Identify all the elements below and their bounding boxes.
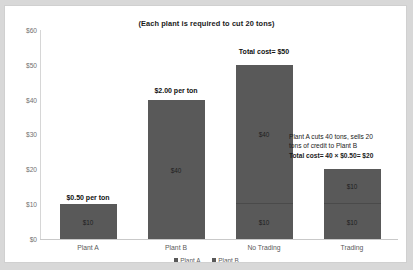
x-label-trading: Trading xyxy=(307,244,397,251)
bar-segment-trading-lower: $10 xyxy=(324,204,381,239)
bar-value-no-trading-upper: $40 xyxy=(236,131,293,138)
y-tick-50: $50 xyxy=(11,62,37,69)
y-tick-0: $0 xyxy=(11,236,37,243)
y-tick-40: $40 xyxy=(11,97,37,104)
bar-segment-plant-a-lower: $10 xyxy=(60,204,117,239)
y-tick-30: $30 xyxy=(11,131,37,138)
chart-legend: Plant A Plant B xyxy=(5,256,407,263)
annotation-line-3: Total cost= 40 × $0.50= $20 xyxy=(289,151,407,160)
bar-segment-no-trading-lower: $10 xyxy=(236,204,293,239)
annotation-text-box: Plant A cuts 40 tons, sells 20 tons of c… xyxy=(289,132,407,160)
x-axis-line xyxy=(40,239,398,240)
y-tick-60: $60 xyxy=(11,27,37,34)
y-tick-10: $10 xyxy=(11,201,37,208)
legend-swatch-icon xyxy=(212,258,216,262)
chart-container: (Each plant is required to cut 20 tons) … xyxy=(4,5,407,263)
bar-label-no-trading: Total cost= $50 xyxy=(219,48,309,55)
annotation-line-1: Plant A cuts 40 tons, sells 20 xyxy=(289,132,407,141)
bar-value-trading-lower: $10 xyxy=(324,218,381,225)
y-axis-line xyxy=(40,30,41,239)
x-label-plant-b: Plant B xyxy=(131,244,221,251)
x-label-plant-a: Plant A xyxy=(43,244,133,251)
plot-area: $0 $10 $20 $30 $40 $50 $60 $0.50 per ton… xyxy=(5,6,407,263)
legend-swatch-icon xyxy=(174,258,178,262)
legend-item-plant-a[interactable]: Plant A xyxy=(174,256,200,263)
bar-value-plant-b-lower: $40 xyxy=(148,166,205,173)
bar-segment-trading-upper: $10 xyxy=(324,169,381,204)
bar-trading[interactable]: $10 $10 xyxy=(307,169,397,239)
legend-label-plant-b: Plant B xyxy=(218,257,239,263)
bar-segment-plant-b-lower: $40 xyxy=(148,100,205,239)
bar-value-no-trading-lower: $10 xyxy=(236,218,293,225)
bar-plant-b[interactable]: $40 xyxy=(131,100,221,239)
bar-plant-a[interactable]: $10 xyxy=(43,204,133,239)
legend-item-plant-b[interactable]: Plant B xyxy=(212,256,239,263)
annotation-line-2: tons of credit to Plant B xyxy=(289,141,407,150)
y-tick-20: $20 xyxy=(11,166,37,173)
bar-value-plant-a-lower: $10 xyxy=(60,218,117,225)
x-label-no-trading: No Trading xyxy=(219,244,309,251)
bar-segment-no-trading-upper: $40 xyxy=(236,65,293,204)
bar-label-plant-b: $2.00 per ton xyxy=(131,87,221,94)
bar-value-trading-upper: $10 xyxy=(324,183,381,190)
bar-label-plant-a: $0.50 per ton xyxy=(43,194,133,201)
legend-label-plant-a: Plant A xyxy=(180,257,200,263)
